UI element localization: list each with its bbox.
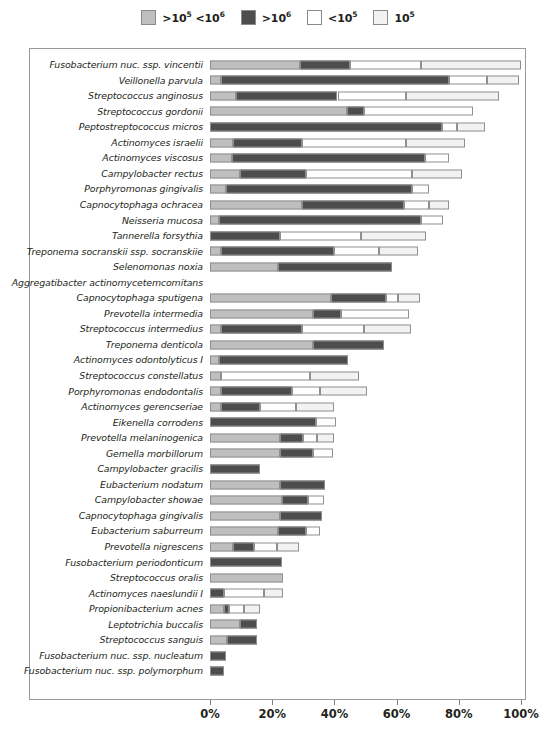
bar-segment-s2 — [232, 154, 425, 163]
category-label: Campylobacter rectus — [0, 169, 203, 178]
bar-segment-s4 — [317, 433, 334, 442]
bar-segment-s1 — [210, 433, 280, 442]
bar-segment-s3 — [292, 387, 320, 396]
bar-segment-s3 — [338, 91, 406, 100]
bar-segment-s3 — [221, 371, 310, 380]
bar-segment-s1 — [210, 573, 283, 582]
category-label: Actinomyces viscosus — [0, 153, 203, 162]
legend-item-s4: 105 — [373, 10, 414, 25]
bar-segment-s1 — [210, 496, 282, 505]
legend-swatch-s2 — [241, 10, 256, 25]
chart-row: Actinomyces viscosus — [0, 150, 556, 166]
category-label: Streptococcus gordonii — [0, 107, 203, 116]
chart-row: Treponema denticola — [0, 337, 556, 353]
category-label: Eubacterium saburreum — [0, 526, 203, 535]
stacked-bar — [210, 402, 521, 411]
bar-segment-s2 — [227, 636, 257, 645]
stacked-bar — [210, 604, 521, 613]
bar-segment-s2 — [221, 387, 293, 396]
bar-segment-s3 — [425, 154, 450, 163]
bar-segment-s3 — [350, 60, 422, 69]
chart-row: Actinomyces israelii — [0, 135, 556, 151]
bar-segment-s3 — [364, 107, 473, 116]
bar-segment-s2 — [280, 449, 313, 458]
bar-segment-s1 — [210, 480, 280, 489]
stacked-bar — [210, 325, 521, 334]
stacked-bar — [210, 200, 521, 209]
bar-segment-s2 — [219, 356, 348, 365]
bar-segment-s4 — [364, 325, 411, 334]
stacked-bar — [210, 216, 521, 225]
chart-row: Leptotrichia buccalis — [0, 617, 556, 633]
stacked-bar — [210, 309, 521, 318]
category-label: Tannerella forsythia — [0, 231, 203, 240]
bar-segment-s3 — [334, 247, 379, 256]
category-label: Prevotella intermedia — [0, 309, 203, 318]
category-label: Prevotella melaninogenica — [0, 433, 203, 442]
bar-segment-s1 — [210, 309, 313, 318]
bar-segment-s1 — [210, 200, 302, 209]
bar-segment-s3 — [341, 309, 409, 318]
x-tick-mark — [210, 700, 211, 705]
bar-segment-s2 — [210, 231, 280, 240]
category-label: Porphyromonas endodontalis — [0, 387, 203, 396]
legend-item-s3: <105 — [307, 10, 357, 25]
bar-segment-s4 — [421, 60, 521, 69]
bar-segment-s3 — [280, 231, 361, 240]
chart-row: Campylobacter showae — [0, 492, 556, 508]
bar-segment-s2 — [280, 511, 322, 520]
stacked-bar — [210, 340, 521, 349]
category-label: Actinomyces israelii — [0, 138, 203, 147]
bar-segment-s2 — [221, 325, 302, 334]
stacked-bar — [210, 185, 521, 194]
stacked-bar — [210, 356, 521, 365]
bar-segment-s2 — [313, 340, 385, 349]
stacked-bar — [210, 122, 521, 131]
stacked-bar — [210, 449, 521, 458]
bar-segment-s3 — [303, 433, 317, 442]
x-tick-label: 100% — [503, 707, 539, 721]
chart-row: Neisseria mucosa — [0, 212, 556, 228]
bar-segment-s3 — [412, 185, 429, 194]
stacked-bar — [210, 589, 521, 598]
legend-item-s1: >105 <106 — [141, 10, 224, 25]
category-label: Fusobacterium nuc. ssp. vincentii — [0, 60, 203, 69]
chart-row: Porphyromonas endodontalis — [0, 383, 556, 399]
category-label: Prevotella nigrescens — [0, 542, 203, 551]
category-label: Treponema denticola — [0, 340, 203, 349]
bar-segment-s2 — [210, 558, 282, 567]
category-label: Fusobacterium nuc. ssp. polymorphum — [0, 666, 203, 675]
bar-segment-s4 — [487, 76, 520, 85]
category-label: Eikenella corrodens — [0, 418, 203, 427]
category-label: Campylobacter gracilis — [0, 464, 203, 473]
stacked-bar — [210, 542, 521, 551]
chart-row: Prevotella nigrescens — [0, 539, 556, 555]
bar-segment-s1 — [210, 154, 232, 163]
bar-segment-s1 — [210, 216, 219, 225]
bar-segment-s3 — [254, 542, 277, 551]
bar-segment-s1 — [210, 169, 240, 178]
bar-segment-s1 — [210, 340, 313, 349]
bar-segment-s4 — [406, 91, 499, 100]
bar-segment-s2 — [210, 651, 226, 660]
bar-segment-s2 — [233, 138, 301, 147]
chart-row: Veillonella parvula — [0, 73, 556, 89]
bar-segment-s3 — [306, 527, 320, 536]
bar-segment-s3 — [224, 589, 264, 598]
category-label: Peptostreptococcus micros — [0, 122, 203, 131]
bar-segment-s1 — [210, 527, 278, 536]
chart-legend: >105 <106>106<105105 — [0, 10, 556, 25]
x-tick-label: 60% — [383, 707, 411, 721]
bar-segment-s2 — [331, 293, 385, 302]
x-tick-mark — [459, 700, 460, 705]
bar-segment-s1 — [210, 449, 280, 458]
bar-segment-s2 — [302, 200, 405, 209]
bar-segment-s2 — [221, 76, 450, 85]
chart-row: Streptococcus constellatus — [0, 368, 556, 384]
bar-segment-s1 — [210, 620, 240, 629]
stacked-bar — [210, 573, 521, 582]
category-label: Actinomyces gerencseriae — [0, 402, 203, 411]
bar-segment-s3 — [316, 418, 336, 427]
chart-row: Streptococcus intermedius — [0, 321, 556, 337]
stacked-bar — [210, 138, 521, 147]
